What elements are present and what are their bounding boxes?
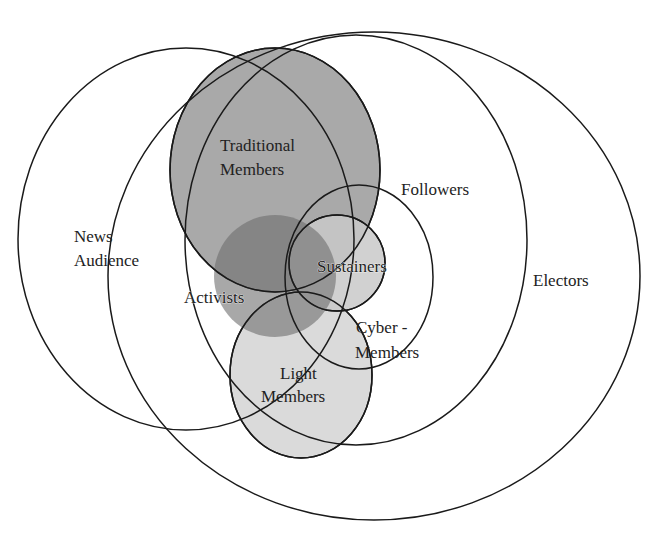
label-news-audience-line1: News xyxy=(74,227,113,246)
label-activists: Activists xyxy=(184,288,244,307)
label-traditional-members-line2: Members xyxy=(220,160,284,179)
label-traditional-members-line1: Traditional xyxy=(220,136,295,155)
label-light-members-line2: Members xyxy=(261,387,325,406)
label-electors: Electors xyxy=(533,271,589,290)
label-light-members-line1: Light xyxy=(280,364,317,383)
label-news-audience-line2: Audience xyxy=(74,251,139,270)
activists-set xyxy=(214,215,336,337)
membership-diagram: News Audience Electors Followers Traditi… xyxy=(0,0,650,533)
label-followers: Followers xyxy=(401,180,469,199)
label-cyber-members-line1: Cyber - xyxy=(356,318,408,337)
label-sustainers: Sustainers xyxy=(317,257,387,276)
label-cyber-members-line2: Members xyxy=(355,343,419,362)
